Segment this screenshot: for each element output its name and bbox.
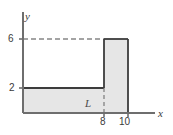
y-axis-label: y (25, 11, 30, 22)
y-tick-label-6: 6 (8, 34, 14, 44)
l-shaped-region-fill (23, 39, 128, 113)
x-axis-label: x (158, 108, 163, 119)
y-tick-label-2: 2 (9, 83, 15, 93)
figure-container: y x 6 2 8 10 L (0, 0, 173, 135)
region-label-L: L (85, 98, 91, 109)
x-tick-label-8: 8 (100, 117, 106, 127)
x-tick-label-10: 10 (119, 117, 130, 127)
